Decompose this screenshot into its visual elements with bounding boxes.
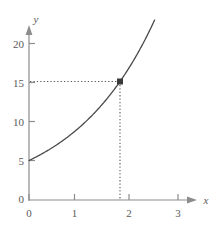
y-tick-label-5: 5	[19, 155, 25, 167]
x-tick-label-1: 1	[72, 207, 78, 219]
x-tick-label-2: 2	[126, 207, 132, 219]
plot-canvas: 20 15 10 5 0 0 1 2 3 y x	[0, 0, 216, 228]
x-tick-label-3: 3	[175, 207, 181, 219]
exponential-growth-chart: 20 15 10 5 0 0 1 2 3 y x	[0, 0, 216, 228]
marked-point-marker	[117, 79, 123, 85]
y-tick-label-0: 0	[19, 193, 25, 205]
y-tick-label-15: 15	[13, 77, 25, 89]
x-axis-arrowhead	[187, 197, 197, 204]
x-tick-label-0: 0	[26, 207, 32, 219]
x-axis-label: x	[203, 194, 209, 206]
y-tick-label-10: 10	[13, 116, 25, 128]
y-tick-label-20: 20	[13, 38, 25, 50]
exponential-curve	[29, 20, 155, 160]
y-axis-label: y	[33, 13, 39, 25]
y-axis-arrowhead	[26, 25, 33, 35]
